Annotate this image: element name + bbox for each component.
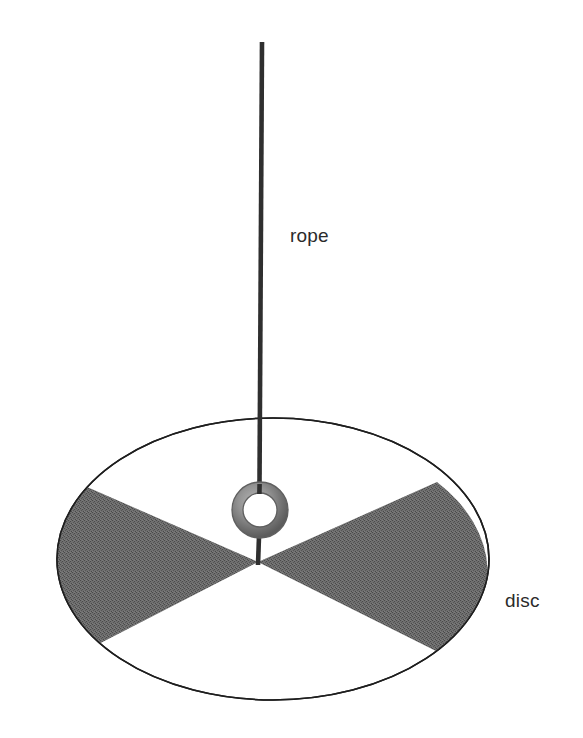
disc-and-rope-figure [0, 0, 583, 738]
label-rope: rope [290, 225, 329, 247]
label-disc: disc [505, 590, 540, 612]
diagram-canvas: rope disc [0, 0, 583, 738]
rope-upper-segment [260, 42, 263, 484]
